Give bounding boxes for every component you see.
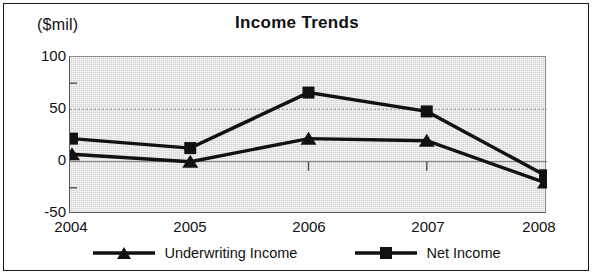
square-marker-icon — [355, 245, 417, 261]
x-tick-label-2007: 2007 — [393, 218, 463, 235]
legend-item-underwriting-income: Underwriting Income — [93, 245, 297, 261]
chart-title: Income Trends — [4, 13, 590, 33]
x-tick-label-2008: 2008 — [504, 218, 574, 235]
series-canvas — [70, 57, 547, 214]
y-axis-tick-labels: 100 50 0 -50 — [4, 56, 66, 213]
legend-label-net-income: Net Income — [426, 245, 500, 261]
legend-item-net-income: Net Income — [355, 245, 500, 261]
chart-legend: Underwriting Income Net Income — [4, 245, 590, 261]
x-axis-ticks — [309, 162, 427, 171]
y-tick-label-0: 0 — [20, 151, 66, 168]
data-point-net-income-2004 — [70, 133, 78, 145]
triangle-marker-icon — [93, 245, 155, 261]
plot-area — [69, 56, 546, 213]
data-point-net-income-2005 — [184, 142, 196, 154]
x-tick-label-2004: 2004 — [36, 218, 106, 235]
data-point-net-income-2007 — [421, 105, 433, 117]
y-tick-label-100: 100 — [20, 47, 66, 64]
x-tick-label-2005: 2005 — [155, 218, 225, 235]
y-axis-unit-label: ($mil) — [37, 16, 78, 34]
data-point-net-income-2006 — [303, 87, 315, 99]
chart-frame: Income Trends ($mil) 100 50 0 -50 — [3, 3, 589, 271]
x-tick-label-2006: 2006 — [274, 218, 344, 235]
y-tick-label-50: 50 — [20, 99, 66, 116]
legend-label-underwriting-income: Underwriting Income — [164, 245, 297, 261]
